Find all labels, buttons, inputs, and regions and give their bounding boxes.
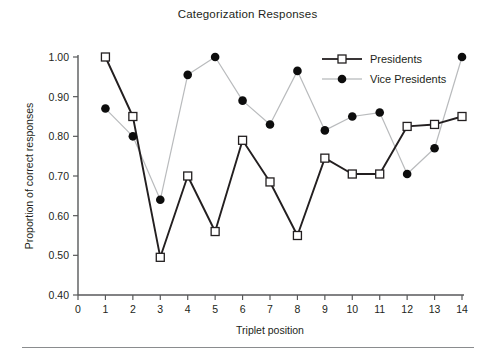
y-tick-label: 1.00 bbox=[49, 51, 70, 63]
data-point-presidents bbox=[348, 170, 356, 178]
x-tick-label: 6 bbox=[240, 303, 246, 315]
legend-label: Vice Presidents bbox=[370, 73, 447, 85]
x-tick-label: 5 bbox=[212, 303, 218, 315]
x-tick-label: 13 bbox=[429, 303, 441, 315]
series-line-presidents bbox=[105, 57, 462, 257]
data-point-vice-presidents bbox=[458, 53, 467, 62]
data-point-presidents bbox=[266, 178, 274, 186]
y-tick-label: 0.90 bbox=[49, 91, 70, 103]
x-tick-label: 10 bbox=[346, 303, 358, 315]
data-point-vice-presidents bbox=[183, 71, 192, 80]
data-point-vice-presidents bbox=[101, 104, 110, 113]
data-point-vice-presidents bbox=[156, 196, 165, 205]
data-point-vice-presidents bbox=[348, 112, 357, 121]
y-tick-label: 0.50 bbox=[49, 249, 70, 261]
data-point-presidents bbox=[293, 232, 301, 240]
data-point-vice-presidents bbox=[430, 144, 439, 153]
y-tick-label: 0.40 bbox=[49, 289, 70, 301]
data-point-vice-presidents bbox=[211, 53, 220, 62]
x-tick-label: 0 bbox=[75, 303, 81, 315]
data-point-presidents bbox=[239, 136, 247, 144]
y-tick-label: 0.60 bbox=[49, 210, 70, 222]
legend-marker-presidents bbox=[338, 55, 346, 63]
figure-container: Categorization Responses 0.400.500.600.7… bbox=[0, 0, 495, 362]
x-tick-label: 9 bbox=[322, 303, 328, 315]
x-tick-label: 8 bbox=[295, 303, 301, 315]
data-point-presidents bbox=[403, 122, 411, 130]
line-chart: 0.400.500.600.700.800.901.00012345678910… bbox=[0, 0, 495, 362]
x-axis-title: Triplet position bbox=[236, 324, 304, 336]
series-lines-group bbox=[105, 57, 462, 257]
data-point-vice-presidents bbox=[266, 120, 275, 129]
data-point-presidents bbox=[129, 113, 137, 121]
data-point-presidents bbox=[458, 113, 466, 121]
data-point-presidents bbox=[321, 154, 329, 162]
data-point-vice-presidents bbox=[403, 170, 412, 179]
y-tick-label: 0.70 bbox=[49, 170, 70, 182]
data-point-presidents bbox=[156, 253, 164, 261]
x-tick-label: 7 bbox=[267, 303, 273, 315]
data-point-vice-presidents bbox=[321, 126, 330, 135]
y-axis-title: Proportion of correct responses bbox=[23, 103, 35, 250]
legend-marker-vice-presidents bbox=[338, 75, 347, 84]
x-tick-label: 11 bbox=[374, 303, 385, 315]
x-tick-label: 12 bbox=[401, 303, 413, 315]
data-point-vice-presidents bbox=[238, 96, 247, 105]
x-tick-label: 3 bbox=[157, 303, 163, 315]
chart-legend: PresidentsVice Presidents bbox=[322, 53, 447, 85]
bottom-divider bbox=[22, 347, 474, 348]
x-tick-label: 14 bbox=[456, 303, 468, 315]
data-point-vice-presidents bbox=[375, 108, 384, 117]
data-point-presidents bbox=[376, 170, 384, 178]
y-tick-label: 0.80 bbox=[49, 130, 70, 142]
data-point-presidents bbox=[184, 172, 192, 180]
data-point-presidents bbox=[431, 120, 439, 128]
x-tick-label: 1 bbox=[103, 303, 109, 315]
legend-label: Presidents bbox=[370, 53, 422, 65]
data-point-vice-presidents bbox=[293, 67, 302, 76]
axes-group: 0.400.500.600.700.800.901.00012345678910… bbox=[23, 51, 468, 336]
data-point-presidents bbox=[211, 228, 219, 236]
data-point-presidents bbox=[101, 53, 109, 61]
data-point-vice-presidents bbox=[129, 132, 138, 141]
x-tick-label: 2 bbox=[130, 303, 136, 315]
x-tick-label: 4 bbox=[185, 303, 191, 315]
